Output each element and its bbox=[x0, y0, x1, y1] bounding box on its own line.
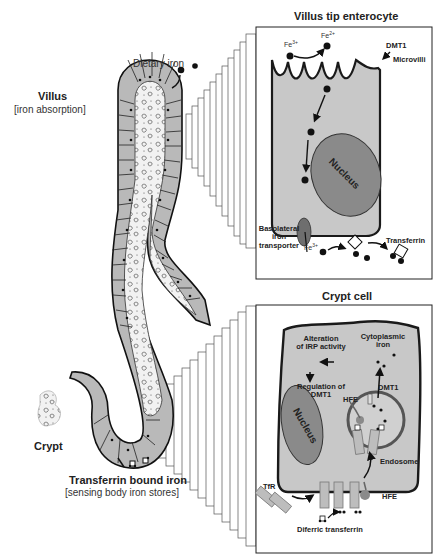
basolateral-line-3: transporter bbox=[258, 242, 300, 250]
villus-subtitle: [iron absorption] bbox=[14, 104, 86, 115]
fe3-out-sup: 3+ bbox=[312, 242, 318, 248]
diferric-transferrin-label: Diferric transferrin bbox=[297, 526, 363, 534]
dmt1-crypt-label: DMT1 bbox=[378, 384, 398, 392]
hfe-top-label: HFE bbox=[343, 396, 358, 404]
regulation-dmt1-label: Regulation of DMT1 bbox=[292, 383, 350, 400]
fe3-out-text: Fe bbox=[304, 244, 312, 251]
sensing-body-iron-label: [sensing body iron stores] bbox=[65, 487, 179, 498]
dietary-iron-label: Dietary iron bbox=[133, 58, 184, 69]
alteration-line-2: of IRP activity bbox=[290, 343, 352, 351]
fe3-sup: 3+ bbox=[292, 39, 298, 45]
fe3-text: Fe bbox=[284, 41, 292, 48]
transferrin-label: Transferrin bbox=[386, 237, 425, 245]
tfr-label: TfR bbox=[263, 483, 276, 491]
cytoplasmic-line-2: iron bbox=[358, 341, 408, 349]
alteration-irp-label: Alteration of IRP activity bbox=[290, 335, 352, 352]
fe3-label: Fe3+ bbox=[284, 40, 298, 49]
basolateral-transporter-label: Basolateral iron transporter bbox=[258, 225, 300, 250]
crypt-cell-title: Crypt cell bbox=[322, 290, 372, 302]
transferrin-bound-iron-label: Transferrin bound iron bbox=[69, 474, 187, 486]
fe2-label: Fe2+ bbox=[321, 31, 335, 40]
regulation-line-2: DMT1 bbox=[292, 391, 350, 399]
dmt1-label: DMT1 bbox=[386, 42, 406, 50]
cytoplasmic-iron-label: Cytoplasmic iron bbox=[358, 333, 408, 350]
crypt-label: Crypt bbox=[34, 440, 63, 452]
microvilli-label: Microvilli bbox=[393, 56, 426, 64]
villus-tip-title: Villus tip enterocyte bbox=[294, 10, 398, 22]
endosome-label: Endosome bbox=[380, 458, 418, 466]
fe3-out-label: Fe3+ bbox=[304, 243, 318, 252]
fe2-sup: 2+ bbox=[329, 30, 335, 36]
villus-title: Villus bbox=[38, 90, 67, 102]
fe2-text: Fe bbox=[321, 32, 329, 39]
hfe-bottom-label: HFE bbox=[382, 493, 397, 501]
iron-absorption-diagram bbox=[0, 0, 445, 559]
